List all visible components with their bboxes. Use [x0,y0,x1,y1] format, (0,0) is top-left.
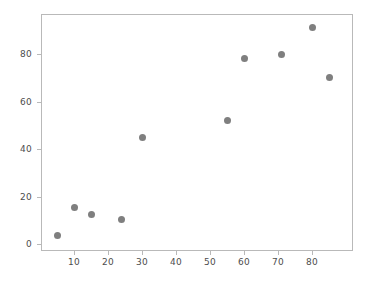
data-point [309,24,316,31]
y-tick-mark [37,54,41,55]
y-tick-label: 0 [26,239,32,249]
y-tick-label: 80 [20,49,32,59]
data-point [71,204,78,211]
x-tick-mark [210,251,211,255]
y-tick-mark [37,244,41,245]
x-tick-label: 40 [170,257,182,267]
y-tick-mark [37,102,41,103]
y-tick-mark [37,197,41,198]
data-point [278,51,285,58]
x-tick-mark [244,251,245,255]
x-tick-mark [278,251,279,255]
x-tick-mark [74,251,75,255]
y-tick-label: 20 [20,192,32,202]
x-tick-mark [312,251,313,255]
x-tick-mark [108,251,109,255]
x-tick-mark [142,251,143,255]
y-tick-label: 60 [20,97,32,107]
x-tick-label: 10 [68,257,80,267]
x-tick-label: 80 [306,257,318,267]
data-point [224,117,231,124]
data-point [118,216,125,223]
data-point [241,55,248,62]
data-point [88,211,95,218]
data-point [139,134,146,141]
x-tick-label: 20 [102,257,114,267]
x-tick-label: 60 [238,257,250,267]
y-tick-label: 40 [20,144,32,154]
data-point [54,232,61,239]
data-point [326,74,333,81]
x-tick-mark [176,251,177,255]
x-tick-label: 70 [272,257,284,267]
y-tick-mark [37,149,41,150]
x-tick-label: 30 [136,257,148,267]
scatter-plot-figure: 1020304050607080 020406080 [0,0,373,284]
x-tick-label: 50 [204,257,216,267]
